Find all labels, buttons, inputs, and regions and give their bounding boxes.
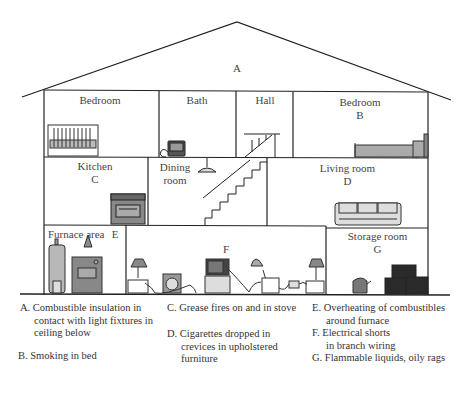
furnace-marker: E [109, 228, 121, 241]
furnace-icon [72, 235, 102, 293]
sofa-icon [335, 203, 401, 225]
bedroom-right-label: Bedroom B [320, 96, 400, 122]
roof-outline [22, 22, 451, 100]
desk-lamp-icon [251, 259, 279, 293]
furnace-area-label: Furnace area [48, 228, 108, 241]
bedroom-right-marker: B [356, 109, 363, 121]
storage-room-label: Storage room G [340, 230, 415, 256]
kitchen-label: Kitchen C [70, 160, 120, 186]
legend-item-a: A. Combustible insulation in contact wit… [20, 302, 153, 340]
attic-marker: A [225, 62, 249, 75]
living-room-label: Living room D [305, 162, 390, 188]
legend-item-f: F. Electrical shorts in branch wiring [312, 327, 395, 352]
hall-label: Hall [245, 94, 285, 107]
bed-icon [355, 134, 428, 157]
space-heater-icon [160, 141, 185, 157]
stove-icon [111, 194, 145, 224]
table-lamp-icon [128, 259, 148, 293]
ceiling-lamp-icon [198, 158, 216, 172]
bedroom-left-label: Bedroom [60, 94, 140, 107]
fan-icon [163, 274, 181, 293]
crib-icon [48, 125, 98, 156]
kettle-icon [353, 278, 371, 293]
legend-item-g: G. Flammable liquids, oily rags [312, 352, 445, 365]
legend-item-e: E. Overheating of combustibles around fu… [312, 302, 445, 327]
legend-item-c: C. Grease fires on and in stove [167, 302, 296, 315]
kitchen-marker: C [91, 173, 98, 185]
boxes-icon [385, 265, 428, 294]
staircase-icon [203, 134, 280, 226]
storage-room-marker: G [374, 243, 382, 255]
table-lamp-icon [306, 259, 324, 293]
legend-item-d: D. Cigarettes dropped in crevices in uph… [167, 328, 278, 366]
dining-label: Dining room [155, 161, 195, 187]
legend-item-b: B. Smoking in bed [18, 350, 97, 363]
television-icon [205, 259, 230, 293]
outlet-icon [289, 281, 299, 288]
living-room-marker: D [344, 175, 352, 187]
basement-marker: F [218, 243, 234, 256]
bath-label: Bath [177, 94, 217, 107]
water-heater-icon [49, 239, 65, 293]
